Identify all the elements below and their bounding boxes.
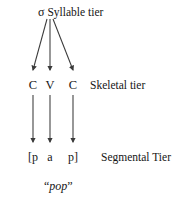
association-lines xyxy=(0,0,189,201)
caption-close-quote: ” xyxy=(67,179,72,193)
syllable-structure-diagram: σ Syllable tier C V C Skeletal tier [p a… xyxy=(0,0,189,201)
sigma-to-onset-arrow xyxy=(33,19,47,70)
word-caption: “pop” xyxy=(44,180,73,192)
segmental-tier-label: Segmental Tier xyxy=(101,152,171,164)
segment-slot-second: a xyxy=(42,151,58,163)
segment-slot-third: p] xyxy=(65,151,81,163)
skeletal-slot-coda: C xyxy=(66,79,80,92)
skeletal-slot-onset: C xyxy=(26,79,40,92)
skeletal-slot-nucleus: V xyxy=(43,79,57,92)
segment-slot-first: [p xyxy=(25,151,41,163)
caption-word: pop xyxy=(49,179,67,193)
sigma-to-coda-arrow xyxy=(53,19,73,70)
skeletal-tier-label: Skeletal tier xyxy=(90,80,145,92)
